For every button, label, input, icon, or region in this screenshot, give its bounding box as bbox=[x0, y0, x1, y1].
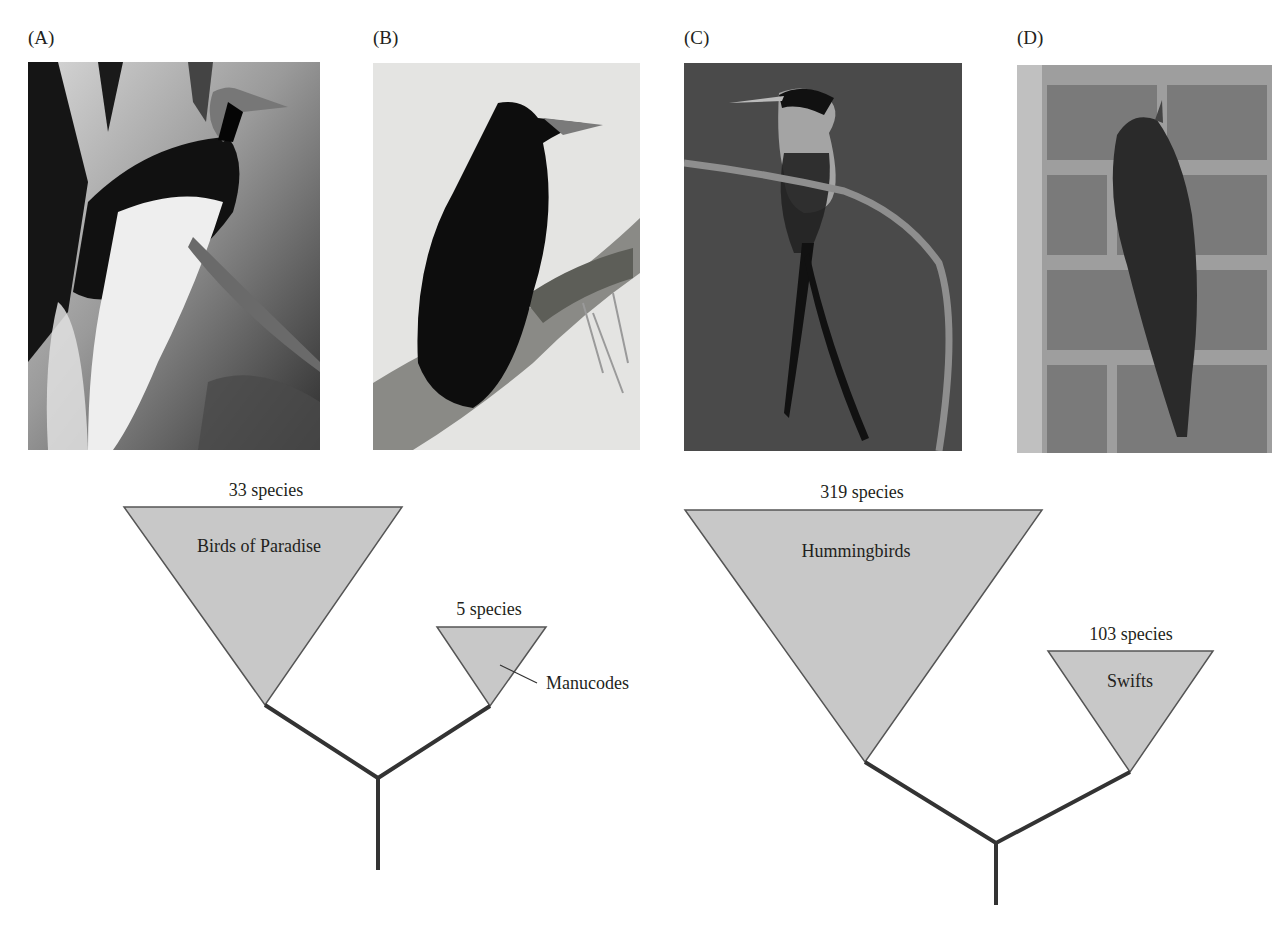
right-tree: 319 species Hummingbirds 103 species Swi… bbox=[685, 482, 1213, 905]
birds-of-paradise-count: 33 species bbox=[229, 480, 303, 500]
manucodes-count: 5 species bbox=[456, 599, 521, 619]
phylogeny-diagrams: 33 species Birds of Paradise 5 species M… bbox=[0, 0, 1273, 933]
swifts-clade bbox=[1048, 651, 1213, 772]
swifts-count: 103 species bbox=[1089, 624, 1172, 644]
manucodes-clade bbox=[437, 627, 546, 706]
left-tree: 33 species Birds of Paradise 5 species M… bbox=[124, 480, 629, 870]
swifts-label: Swifts bbox=[1107, 671, 1153, 691]
manucodes-label: Manucodes bbox=[546, 673, 629, 693]
birds-of-paradise-label: Birds of Paradise bbox=[197, 536, 321, 556]
left-branch bbox=[265, 705, 490, 778]
right-branch bbox=[865, 762, 1130, 843]
hummingbirds-count: 319 species bbox=[820, 482, 903, 502]
hummingbirds-label: Hummingbirds bbox=[801, 541, 910, 561]
